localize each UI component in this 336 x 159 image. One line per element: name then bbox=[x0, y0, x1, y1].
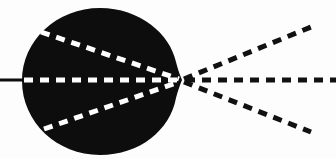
figure-container bbox=[0, 0, 336, 159]
ray-diagram-svg bbox=[0, 0, 336, 159]
